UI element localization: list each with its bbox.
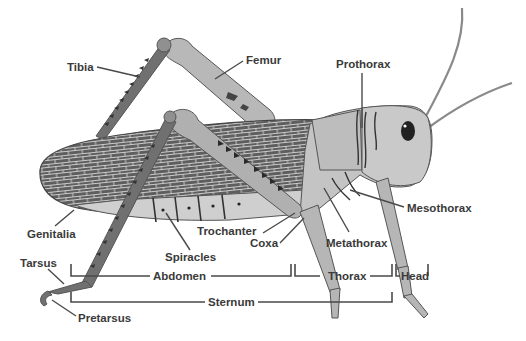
label-head: Head xyxy=(401,270,429,282)
antennae xyxy=(425,8,512,128)
label-genitalia: Genitalia xyxy=(27,228,76,240)
label-tarsus: Tarsus xyxy=(20,257,57,269)
label-trochanter: Trochanter xyxy=(197,225,257,237)
label-spiracles: Spiracles xyxy=(165,251,216,263)
label-metathorax: Metathorax xyxy=(326,237,388,249)
label-prothorax: Prothorax xyxy=(336,58,391,70)
label-mesothorax: Mesothorax xyxy=(407,202,472,214)
label-abdomen: Abdomen xyxy=(153,270,206,282)
label-pretarsus: Pretarsus xyxy=(78,312,131,324)
grasshopper-anatomy-diagram: Tibia Femur Prothorax Mesothorax Metatho… xyxy=(0,0,526,341)
label-thorax: Thorax xyxy=(328,270,367,282)
label-tibia: Tibia xyxy=(67,61,94,73)
thorax-head xyxy=(300,106,432,214)
label-sternum: Sternum xyxy=(208,296,255,308)
label-coxa: Coxa xyxy=(250,237,279,249)
label-femur: Femur xyxy=(246,54,282,66)
